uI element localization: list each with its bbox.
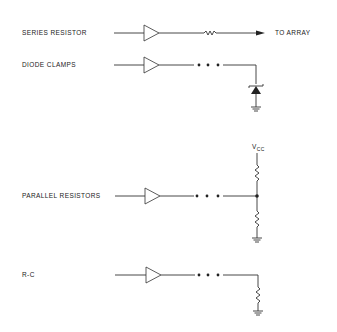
- buffer-icon: [145, 188, 160, 204]
- ellipsis-dot-icon: [206, 195, 209, 198]
- ground-icon: [253, 311, 263, 315]
- ellipsis-dot-icon: [196, 195, 199, 198]
- row-series-resistor: [114, 25, 265, 41]
- resistor-icon: [204, 31, 216, 35]
- resistor-icon: [256, 287, 260, 303]
- resistor-icon: [255, 211, 259, 227]
- ellipsis-dot-icon: [217, 274, 220, 277]
- buffer-icon: [144, 25, 159, 41]
- ground-icon: [251, 107, 261, 111]
- schematic-canvas: [0, 0, 337, 332]
- ellipsis-dot-icon: [198, 274, 201, 277]
- ellipsis-dot-icon: [198, 64, 201, 67]
- buffer-icon: [144, 57, 159, 73]
- arrow-icon: [256, 31, 265, 36]
- row-diode-clamps: [114, 57, 263, 111]
- row-r-c: [115, 267, 263, 315]
- ellipsis-dot-icon: [207, 274, 210, 277]
- ground-icon: [252, 238, 262, 242]
- zener-diode-icon: [249, 84, 263, 94]
- buffer-icon: [146, 267, 161, 283]
- ellipsis-dot-icon: [207, 64, 210, 67]
- resistor-icon: [255, 165, 259, 181]
- junction-dot-icon: [255, 194, 259, 198]
- ellipsis-dot-icon: [217, 64, 220, 67]
- ellipsis-dot-icon: [217, 195, 220, 198]
- row-parallel-resistors: [115, 153, 262, 242]
